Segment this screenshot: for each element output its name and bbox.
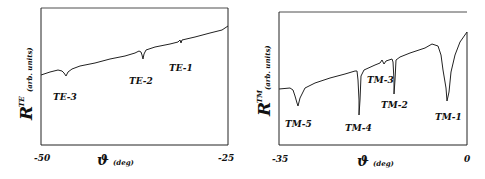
te-xtick-min: -50 (34, 153, 51, 163)
te-curve (41, 26, 228, 76)
te-ylabel-units: (arb. units) (25, 47, 34, 92)
te-xlabel-symbol: ϑ (97, 152, 109, 168)
tm-xlabel-symbol: ϑ (357, 153, 369, 169)
te-plot: TE-3 TE-2 TE-1 -50 -25 ϑ (deg) R TE (arb… (16, 8, 234, 168)
figure: TE-3 TE-2 TE-1 -50 -25 ϑ (deg) R TE (arb… (0, 0, 485, 179)
tm-plot: TM-5 TM-4 TM-3 TM-2 TM-1 -35 0 ϑ (deg) R… (254, 12, 471, 169)
te1-label: TE-1 (169, 63, 193, 73)
te-xtick-max: -25 (218, 153, 234, 163)
tm4-label: TM-4 (345, 123, 372, 133)
te3-label: TE-3 (53, 92, 77, 102)
tm3-label: TM-3 (367, 75, 394, 85)
tm1-label: TM-1 (435, 112, 462, 122)
te-xlabel-units: (deg) (113, 158, 134, 167)
tm-ylabel-units: (arb. units) (263, 45, 272, 90)
tm-xtick-min: -35 (272, 154, 288, 164)
te2-label: TE-2 (129, 76, 153, 86)
tm-xtick-max: 0 (464, 154, 471, 164)
tm5-label: TM-5 (285, 119, 312, 129)
te-ylabel-sup: TE (17, 96, 26, 107)
tm-ylabel-main: R (254, 102, 274, 117)
te-ylabel-main: R (16, 106, 36, 121)
tm-curve (279, 32, 467, 115)
tm-ylabel: R TM (arb. units) (254, 45, 274, 117)
tm-ylabel-sup: TM (255, 90, 264, 103)
tm-xlabel-units: (deg) (373, 159, 394, 168)
te-ylabel: R TE (arb. units) (16, 47, 36, 121)
tm2-label: TM-2 (381, 100, 408, 110)
